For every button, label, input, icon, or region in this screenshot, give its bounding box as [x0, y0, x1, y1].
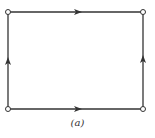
node-top-right — [141, 10, 146, 15]
figure-caption: (a) — [0, 117, 155, 128]
node-top-left — [6, 10, 11, 15]
node-bottom-right — [141, 107, 146, 112]
node-bottom-left — [6, 107, 11, 112]
